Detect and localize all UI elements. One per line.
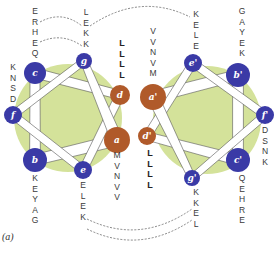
residue-b2-1: A — [239, 17, 245, 27]
position-label: d — [117, 90, 124, 100]
arc-e-gprime-upper — [87, 209, 192, 230]
residue-c2-1: E — [239, 184, 245, 194]
residue-e2-3: E — [193, 41, 199, 51]
arc-e-gprime-lower — [87, 220, 192, 240]
residue-c-0: E — [32, 6, 38, 16]
position-label: e' — [189, 58, 197, 68]
residue-a2-1: V — [150, 37, 156, 47]
residue-b-4: G — [32, 215, 39, 225]
position-label: d' — [142, 131, 151, 141]
residue-e-3: K — [80, 212, 86, 222]
residue-f-1: N — [10, 73, 16, 83]
residue-c-3: E — [32, 38, 38, 48]
position-e: e — [74, 161, 92, 179]
residue-b-2: Y — [32, 194, 38, 204]
position-label: b — [32, 155, 38, 165]
position-c2: c' — [226, 148, 250, 172]
residue-b2-4: K — [239, 48, 245, 58]
residue-a2-2: N — [150, 47, 156, 57]
position-label: b' — [233, 70, 242, 80]
residue-e2-1: E — [193, 20, 199, 30]
position-label: g' — [187, 173, 196, 183]
residue-g-3: K — [83, 39, 89, 49]
residue-e2-0: K — [193, 9, 199, 19]
arc-c-g-upper — [40, 17, 82, 26]
helical-wheel-diagram: abcdefga'b'c'd'e'f'g' MVNVVKEYAGERHEQLLL… — [0, 0, 277, 254]
position-d: d — [110, 85, 130, 105]
residue-a-3: V — [114, 182, 120, 192]
residue-a2-0: V — [150, 26, 156, 36]
residue-e-2: E — [80, 201, 86, 211]
position-label: a — [114, 135, 120, 145]
position-b: b — [23, 148, 47, 172]
residue-a-2: N — [114, 171, 120, 181]
residue-f2-3: K — [262, 157, 268, 167]
residue-c-2: H — [32, 27, 38, 37]
residue-f-3: D — [10, 94, 16, 104]
residue-d2-1: L — [147, 159, 153, 169]
residue-e2-2: L — [194, 30, 199, 40]
residue-f-2: S — [10, 83, 16, 93]
residue-d2-0: L — [147, 148, 153, 158]
position-label: c — [32, 68, 38, 78]
residue-c-4: Q — [32, 48, 39, 58]
residue-e-1: L — [81, 191, 86, 201]
connector-b-c — [30, 73, 41, 160]
residue-d-3: L — [119, 70, 125, 80]
residue-c2-3: R — [239, 205, 245, 215]
residue-b2-3: E — [239, 38, 245, 48]
residue-e-0: E — [80, 180, 86, 190]
position-g2: g' — [184, 170, 200, 186]
position-d2: d' — [138, 127, 156, 145]
residue-a-4: V — [114, 192, 120, 202]
residue-b-3: A — [32, 205, 38, 215]
arc-c-g-lower — [40, 38, 82, 46]
residue-f2-2: N — [262, 146, 268, 156]
position-label: c' — [234, 155, 242, 165]
residue-d-2: L — [119, 59, 125, 69]
residue-g2-3: L — [194, 219, 199, 229]
position-label: g — [81, 56, 87, 66]
position-e2: e' — [184, 54, 202, 72]
residue-g-2: K — [83, 28, 89, 38]
position-label: f' — [261, 110, 269, 120]
panel-label: (a) — [2, 231, 14, 243]
residue-g2-2: E — [193, 208, 199, 218]
residue-a-1: V — [114, 161, 120, 171]
residue-d-1: L — [119, 49, 125, 59]
residue-c-1: R — [32, 17, 38, 27]
residue-a-0: M — [113, 150, 120, 160]
residue-b-1: E — [32, 184, 38, 194]
residue-g-0: L — [84, 7, 89, 17]
residue-g-1: E — [83, 18, 89, 28]
position-c: c — [24, 62, 46, 84]
residue-d-0: L — [119, 38, 125, 48]
residue-c2-4: E — [239, 215, 245, 225]
position-label: e — [80, 165, 86, 175]
residue-b2-2: Y — [239, 27, 245, 37]
residue-c2-0: Q — [239, 173, 246, 183]
residue-g2-1: K — [193, 198, 199, 208]
position-f2: f' — [256, 106, 274, 124]
residue-c2-2: H — [239, 194, 245, 204]
position-f: f — [4, 106, 22, 124]
residue-g2-0: K — [193, 187, 199, 197]
residue-b2-0: G — [239, 6, 246, 16]
residue-f-0: K — [10, 62, 16, 72]
position-a2: a' — [140, 84, 166, 110]
residue-f2-0: D — [262, 125, 268, 135]
residue-f2-1: S — [262, 136, 268, 146]
position-label: a' — [149, 92, 158, 102]
residue-b-0: K — [32, 173, 38, 183]
residue-a2-4: M — [149, 68, 156, 78]
arc-g-eprime — [90, 6, 190, 26]
position-b2: b' — [226, 63, 250, 87]
residue-d2-3: L — [147, 180, 153, 190]
residue-a2-3: V — [150, 58, 156, 68]
position-g: g — [76, 53, 92, 69]
residue-d2-2: L — [147, 169, 153, 179]
